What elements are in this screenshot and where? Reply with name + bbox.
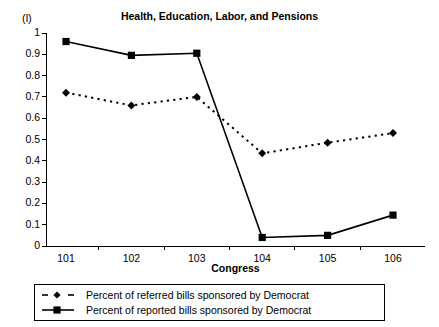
y-tick-label: 1 (14, 27, 40, 38)
data-point-marker (324, 139, 332, 147)
x-axis-title: Congress (46, 262, 425, 274)
data-point-marker (128, 52, 135, 59)
y-axis-ticks (42, 33, 46, 246)
y-tick-label: 0.6 (14, 112, 40, 123)
data-point-marker (127, 101, 135, 109)
legend-item-referred: Percent of referred bills sponsored by D… (35, 287, 384, 302)
data-point-marker (389, 212, 396, 219)
square-solid-line-icon (40, 303, 84, 317)
data-point-marker (62, 38, 69, 45)
plot-area (0, 0, 439, 280)
legend-label-reported: Percent of reported bills sponsored by D… (84, 304, 311, 316)
legend-label-referred: Percent of referred bills sponsored by D… (84, 289, 309, 301)
y-tick-label: 0.7 (14, 91, 40, 102)
chart-figure: (l) Health, Education, Labor, and Pensio… (0, 0, 439, 327)
y-tick-label: 0.4 (14, 155, 40, 166)
data-point-marker (193, 50, 200, 57)
y-tick-label: 0.3 (14, 176, 40, 187)
data-point-marker (389, 129, 397, 137)
legend-item-reported: Percent of reported bills sponsored by D… (35, 302, 384, 317)
y-tick-label: 0.9 (14, 48, 40, 59)
x-axis-ticks (99, 246, 361, 250)
data-point-marker (259, 234, 266, 241)
chart-legend: Percent of referred bills sponsored by D… (34, 284, 385, 321)
axis-spines (46, 33, 425, 246)
data-point-marker (324, 232, 331, 239)
data-point-marker (258, 149, 266, 157)
diamond-dotted-line-icon (40, 288, 84, 302)
series-reported (62, 38, 396, 241)
y-tick-label: 0.8 (14, 70, 40, 81)
y-tick-label: 0.2 (14, 197, 40, 208)
y-tick-label: 0.5 (14, 134, 40, 145)
y-tick-label: 0 (14, 240, 40, 251)
y-tick-label: 0.1 (14, 219, 40, 230)
data-point-marker (62, 89, 70, 97)
